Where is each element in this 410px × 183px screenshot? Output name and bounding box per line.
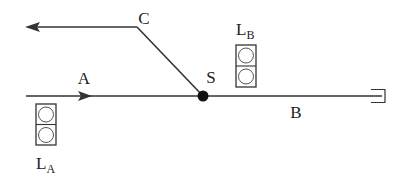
label-a: A xyxy=(78,69,91,88)
switch-node-s xyxy=(198,91,209,102)
signal-lb: LB xyxy=(236,20,256,87)
label-c: C xyxy=(138,9,149,28)
label-lb: LB xyxy=(236,20,254,42)
track-c-diagonal xyxy=(137,27,203,96)
label-la: LA xyxy=(36,154,55,176)
label-b: B xyxy=(290,103,301,122)
label-s: S xyxy=(206,68,215,87)
track-c xyxy=(25,22,203,96)
signal-la: LA xyxy=(36,104,56,176)
junction-diagram: C A S B LB LA xyxy=(0,0,410,183)
